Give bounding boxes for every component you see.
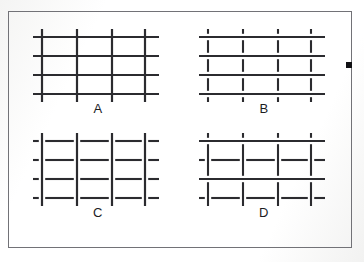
- grid-svg-a: [28, 24, 168, 104]
- panel-c: C: [28, 128, 168, 233]
- panel-a: A: [28, 24, 168, 129]
- figure-root: A B C D: [0, 0, 364, 262]
- grid-svg-d: [194, 128, 334, 208]
- grid-svg-b: [194, 24, 334, 104]
- panel-b: B: [194, 24, 334, 129]
- black-square-edge-marker: [346, 62, 352, 68]
- grid-diagram-d: [194, 128, 334, 208]
- panel-label-c: C: [28, 205, 168, 220]
- grid-diagram-b: [194, 24, 334, 104]
- grid-diagram-a: [28, 24, 168, 104]
- panel-label-d: D: [194, 205, 334, 220]
- panel-label-a: A: [28, 101, 168, 116]
- panel-label-b: B: [194, 101, 334, 116]
- grid-svg-c: [28, 128, 168, 208]
- grid-diagram-c: [28, 128, 168, 208]
- panel-d: D: [194, 128, 334, 233]
